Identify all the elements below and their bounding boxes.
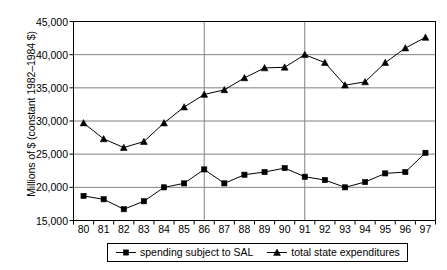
legend-entry-2: total state expenditures bbox=[266, 247, 400, 258]
data-point-marker bbox=[302, 174, 307, 179]
legend-label: spending subject to SAL bbox=[140, 247, 253, 258]
data-point-marker bbox=[322, 177, 327, 182]
data-point-marker bbox=[403, 169, 408, 174]
data-point-marker bbox=[141, 199, 146, 204]
data-point-marker bbox=[383, 171, 388, 176]
data-point-marker bbox=[222, 181, 227, 186]
data-point-marker bbox=[81, 193, 86, 198]
data-point-marker bbox=[182, 181, 187, 186]
data-point-marker bbox=[282, 165, 287, 170]
data-point-marker bbox=[242, 172, 247, 177]
x-axis-tick-label: 97 bbox=[413, 223, 437, 235]
legend-entry-1: spending subject to SAL bbox=[115, 247, 253, 258]
legend-label: total state expenditures bbox=[291, 247, 400, 258]
data-point-marker bbox=[161, 185, 166, 190]
legend-marker-triangle-icon bbox=[266, 247, 288, 258]
data-point-marker bbox=[342, 185, 347, 190]
x-axis-tick-labels: 808182838485868788899091929394959697 bbox=[0, 223, 447, 237]
data-point-marker bbox=[123, 250, 128, 255]
data-point-marker bbox=[262, 169, 267, 174]
data-point-marker bbox=[202, 167, 207, 172]
data-point-marker bbox=[101, 197, 106, 202]
chart-legend: spending subject to SALtotal state expen… bbox=[107, 243, 408, 262]
legend-marker-square-icon bbox=[115, 247, 137, 258]
data-point-marker bbox=[423, 150, 428, 155]
chart-container: Millions of $ (constant 1982–1984 $) 45,… bbox=[0, 0, 447, 270]
data-point-marker bbox=[121, 207, 126, 212]
data-point-marker bbox=[363, 179, 368, 184]
